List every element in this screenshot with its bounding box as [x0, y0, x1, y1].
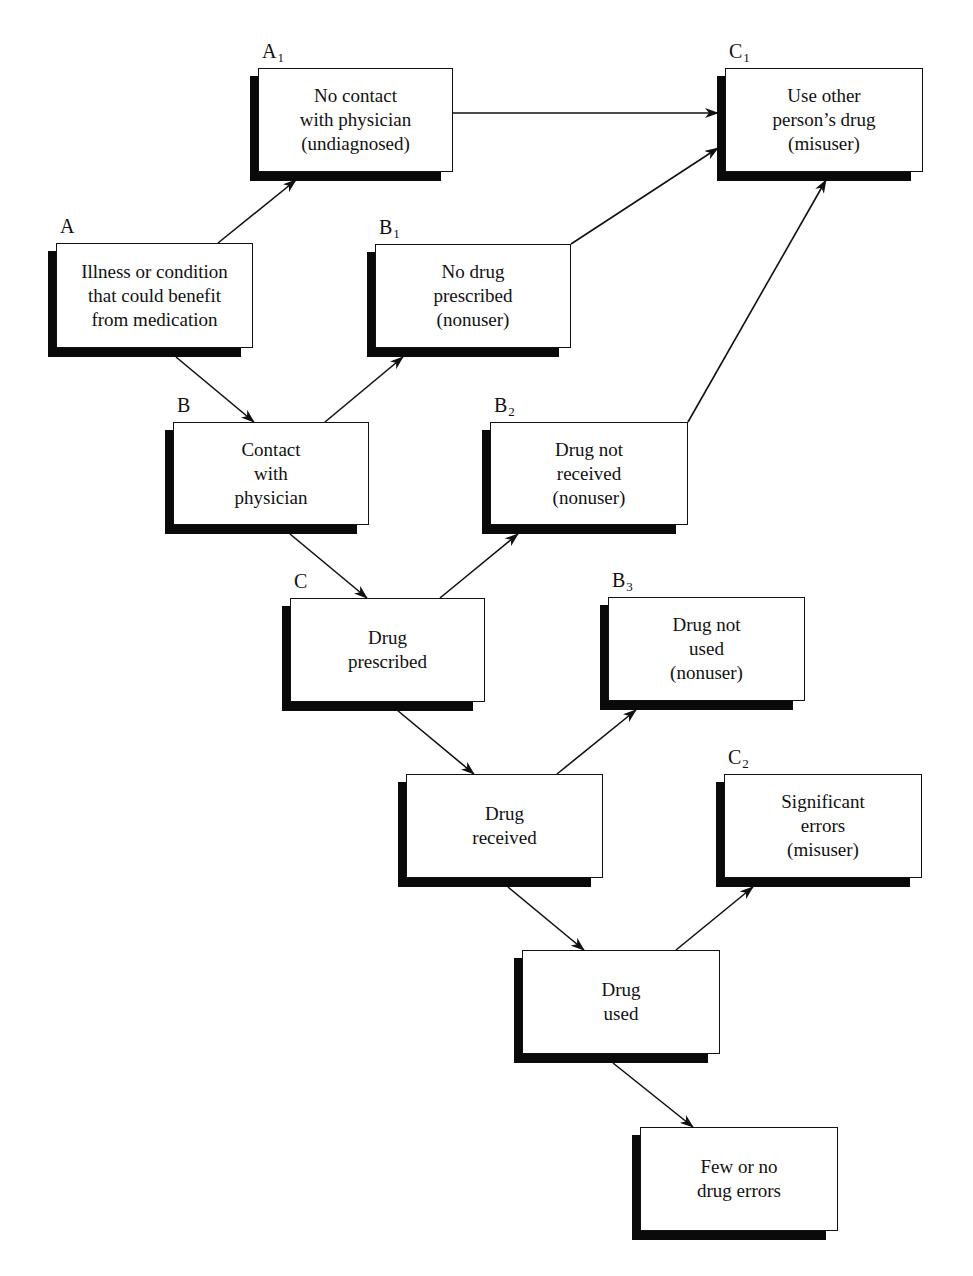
node-text: No contact with physician (undiagnosed): [300, 84, 411, 156]
node-c: Drug prescribed: [282, 598, 485, 711]
label-letter: B: [379, 216, 392, 238]
node-box: Few or no drug errors: [640, 1127, 838, 1231]
node-label-b2: B2: [494, 395, 515, 422]
label-subscript: 1: [277, 50, 284, 65]
node-b3: Drug not used (nonuser): [600, 597, 805, 710]
arrow-b-to-b1: [325, 357, 403, 422]
node-label-b: B: [177, 395, 190, 415]
node-box: No contact with physician (undiagnosed): [258, 68, 453, 172]
node-label-c: C: [294, 571, 307, 591]
node-e: Drug used: [514, 950, 720, 1063]
node-text: Drug received: [472, 802, 536, 850]
label-subscript: 2: [508, 404, 515, 419]
label-subscript: 1: [393, 226, 400, 241]
label-letter: C: [294, 570, 307, 592]
label-letter: C: [728, 746, 741, 768]
label-letter: A: [60, 215, 74, 237]
arrow-c-to-d: [397, 710, 474, 774]
node-box: Contact with physician: [173, 422, 369, 525]
arrow-d-to-e: [508, 887, 584, 950]
node-b1: No drug prescribed (nonuser): [367, 244, 571, 357]
node-text: Contact with physician: [235, 438, 308, 510]
node-text: Drug not received (nonuser): [553, 438, 626, 510]
arrow-a-to-a1: [218, 180, 296, 243]
node-text: Significant errors (misuser): [781, 790, 864, 862]
arrow-d-to-b3: [557, 710, 636, 774]
label-subscript: 3: [626, 579, 633, 594]
node-text: Illness or condition that could benefit …: [81, 260, 228, 332]
label-letter: B: [612, 569, 625, 591]
node-d: Drug received: [398, 774, 603, 887]
node-label-c1: C1: [729, 41, 750, 68]
node-box: Use other person’s drug (misuser): [725, 68, 923, 172]
label-subscript: 1: [743, 50, 750, 65]
node-text: Drug prescribed: [348, 626, 427, 674]
node-b2: Drug not received (nonuser): [482, 422, 688, 534]
node-a1: No contact with physician (undiagnosed): [250, 68, 453, 181]
node-box: Drug not received (nonuser): [490, 422, 688, 525]
node-text: No drug prescribed (nonuser): [433, 260, 512, 332]
node-text: Drug used: [601, 978, 640, 1026]
node-c2: Significant errors (misuser): [716, 774, 922, 887]
node-box: Drug prescribed: [290, 598, 485, 702]
node-box: Drug used: [522, 950, 720, 1054]
node-box: Illness or condition that could benefit …: [56, 243, 253, 348]
node-box: Drug received: [406, 774, 603, 878]
node-label-a1: A1: [262, 41, 284, 68]
node-label-b3: B3: [612, 570, 633, 597]
node-c1: Use other person’s drug (misuser): [717, 68, 923, 181]
node-label-b1: B1: [379, 217, 400, 244]
node-b: Contact with physician: [165, 422, 369, 534]
node-box: Drug not used (nonuser): [608, 597, 805, 701]
arrow-b2-to-c1: [688, 180, 826, 422]
arrow-e-to-c2: [676, 887, 753, 950]
label-letter: C: [729, 40, 742, 62]
node-label-c2: C2: [728, 747, 749, 774]
node-box: Significant errors (misuser): [724, 774, 922, 878]
node-a: Illness or condition that could benefit …: [48, 243, 253, 357]
node-label-a: A: [60, 216, 74, 236]
connector-layer: [0, 0, 973, 1276]
label-subscript: 2: [742, 756, 749, 771]
arrow-e-to-f: [613, 1063, 693, 1127]
node-f: Few or no drug errors: [632, 1127, 838, 1240]
label-letter: B: [177, 394, 190, 416]
node-text: Drug not used (nonuser): [670, 613, 743, 685]
node-text: Few or no drug errors: [697, 1155, 781, 1203]
decision-flow-diagram: Illness or condition that could benefit …: [0, 0, 973, 1276]
arrow-b1-to-c1: [571, 148, 718, 244]
arrow-c-to-b2: [440, 534, 518, 598]
label-letter: B: [494, 394, 507, 416]
label-letter: A: [262, 40, 276, 62]
node-text: Use other person’s drug (misuser): [773, 84, 876, 156]
node-box: No drug prescribed (nonuser): [375, 244, 571, 348]
